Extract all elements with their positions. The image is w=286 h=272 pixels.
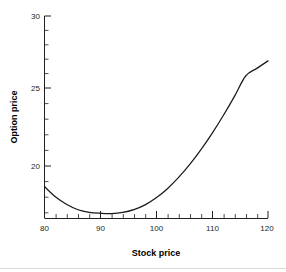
x-tick-label-110: 110 <box>206 224 219 233</box>
x-tick-label-120: 120 <box>260 224 274 233</box>
chart-figure: 30 25 20 80 90 100 110 120 Option price … <box>0 0 286 272</box>
x-tick-label-100: 100 <box>150 224 164 233</box>
x-axis-title: Stock price <box>132 248 181 258</box>
y-axis-title: Option price <box>9 90 19 143</box>
x-tick-label-80: 80 <box>40 224 49 233</box>
y-tick-label-20: 20 <box>31 162 40 171</box>
y-tick-label-30: 30 <box>31 12 40 21</box>
option-price-chart: 30 25 20 80 90 100 110 120 Option price … <box>0 0 286 272</box>
y-tick-label-25: 25 <box>31 84 40 93</box>
x-tick-label-90: 90 <box>96 224 105 233</box>
